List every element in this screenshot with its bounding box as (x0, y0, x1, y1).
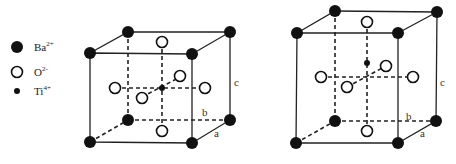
ba-ion-icon (291, 27, 303, 39)
axis-label-a: a (214, 127, 219, 139)
svg-text:Ti4+: Ti4+ (34, 84, 51, 97)
ba-ion-icon (329, 5, 341, 17)
o-ion-icon (200, 83, 211, 94)
ba-ion-icon (329, 115, 341, 127)
ba-ion-icon (224, 26, 236, 38)
o-ion-icon (362, 17, 373, 28)
o-ion-icon (137, 93, 148, 104)
axis-label-b: b (406, 110, 412, 122)
ba-ion-icon (392, 137, 404, 149)
ba-ion-icon (84, 47, 96, 59)
ba-ion-icon (186, 48, 198, 60)
legend: Ba2+ O2- Ti4+ (11, 40, 54, 97)
o-ion-icon (362, 126, 373, 137)
o-ion-icon (175, 71, 186, 82)
o-ion-icon (408, 72, 419, 83)
legend-label-o: O (34, 66, 42, 78)
ba-ion-icon (430, 115, 442, 127)
ba-ion-icon (431, 6, 443, 18)
legend-label-ti: Ti (34, 85, 43, 97)
legend-label-ba: Ba (34, 41, 46, 53)
ba-ion-icon (186, 137, 198, 149)
legend-charge-o: 2- (42, 65, 49, 73)
o-ion-icon (12, 67, 23, 78)
legend-charge-ba: 2+ (46, 40, 54, 48)
ba-ion-icon (392, 27, 404, 39)
axis-label-c: c (440, 76, 445, 88)
ti-ion-icon (159, 85, 165, 91)
ba-ion-icon (122, 26, 134, 38)
ba-ion-icon (84, 136, 96, 148)
ti-ion-icon (14, 88, 20, 94)
ti-ion-icon (364, 60, 370, 66)
o-ion-icon (342, 82, 353, 93)
axis-label-a: a (420, 127, 425, 139)
legend-item-ti: Ti4+ (14, 84, 51, 97)
o-ion-icon (381, 61, 392, 72)
ba-ion-icon (290, 137, 302, 149)
o-ion-icon (157, 126, 168, 137)
axis-label-c: c (234, 76, 239, 88)
axis-label-b: b (202, 106, 208, 118)
cubic-cell: b a c (84, 26, 239, 149)
o-ion-icon (316, 72, 327, 83)
legend-charge-ti: 4+ (43, 84, 51, 92)
svg-text:Ba2+: Ba2+ (34, 40, 54, 53)
o-ion-icon (157, 37, 168, 48)
ba-ion-icon (11, 41, 23, 53)
tetragonal-cell: b a c (290, 5, 445, 149)
ba-ion-icon (224, 114, 236, 126)
ba-ion-icon (122, 114, 134, 126)
perovskite-unit-cell-diagram: Ba2+ O2- Ti4+ (0, 0, 456, 164)
o-ion-icon (110, 83, 121, 94)
legend-item-ba: Ba2+ (11, 40, 54, 53)
legend-item-o: O2- (12, 65, 49, 78)
svg-text:O2-: O2- (34, 65, 48, 78)
